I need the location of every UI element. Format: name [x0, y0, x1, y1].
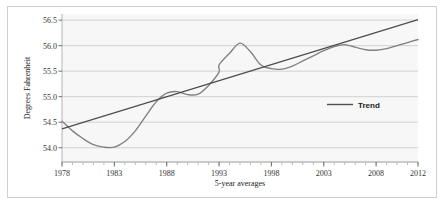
y-axis-title: Degrees Fahrenheit: [23, 56, 32, 119]
x-tick-label-2003: 2003: [316, 169, 332, 178]
x-tick-label-1993: 1993: [211, 169, 227, 178]
chart-figure: 56.556.055.555.054.554.0 197819831988199…: [0, 0, 444, 205]
temperature-line-chart: 56.556.055.555.054.554.0 197819831988199…: [0, 0, 444, 205]
x-tick-label-1978: 1978: [54, 169, 70, 178]
x-tick-label-2008: 2008: [368, 169, 384, 178]
y-tick-label-55.5: 55.5: [43, 67, 57, 76]
y-tick-label-54.0: 54.0: [43, 144, 57, 153]
x-tick-label-1988: 1988: [159, 169, 175, 178]
x-axis-tick-labels: 19781983198819931998200320082012: [54, 169, 426, 178]
y-axis-tick-labels: 56.556.055.555.054.554.0: [43, 16, 62, 153]
x-tick-label-1983: 1983: [106, 169, 122, 178]
y-tick-label-56.0: 56.0: [43, 42, 57, 51]
x-tick-label-2012: 2012: [410, 169, 426, 178]
y-tick-label-55.0: 55.0: [43, 93, 57, 102]
y-tick-label-54.5: 54.5: [43, 118, 57, 127]
x-tick-label-1998: 1998: [263, 169, 279, 178]
x-axis-title: 5-year averages: [215, 179, 265, 188]
legend-label-trend: Trend: [358, 101, 380, 110]
y-tick-label-56.5: 56.5: [43, 16, 57, 25]
